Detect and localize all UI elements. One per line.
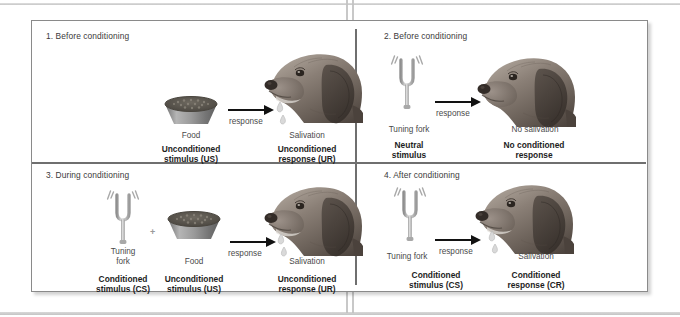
panel-4-stimulus-plain-label: Tuning fork <box>365 252 449 262</box>
plus-sign-combiner: + <box>150 227 155 237</box>
panel-1-stimulus-plain-label: Food <box>152 131 230 141</box>
response-arrow-label-1: response <box>229 117 263 126</box>
tuning-fork-icon-3 <box>106 187 140 245</box>
dog-head-illustration-2 <box>477 47 577 129</box>
figure-frame: 1. Before conditioning <box>31 20 648 292</box>
panel-1-response-bold-label-line1: Unconditioned <box>258 144 356 155</box>
response-arrow-2 <box>435 97 481 107</box>
response-arrow-label-2: response <box>436 109 470 118</box>
food-bowl-icon <box>162 95 220 125</box>
panel-2-response-bold-label-line2: response <box>479 150 589 161</box>
response-arrow-label-3: response <box>228 249 262 258</box>
panel-2-response-plain-label: No salivation <box>485 125 585 135</box>
panel-2-stimulus-plain-label: Tuning fork <box>369 125 449 135</box>
panel-4-response-bold-label-line2: response (CR) <box>487 280 585 291</box>
panel-2-heading: 2. Before conditioning <box>384 31 467 41</box>
panel-after-conditioning: 4. After conditioning <box>357 164 646 293</box>
panel-before-conditioning-fork: 2. Before conditioning <box>357 21 646 163</box>
panel-3-response-bold-label-line1: Unconditioned <box>258 274 356 285</box>
panel-3-fork-plain-label-line1: Tuning <box>87 247 159 257</box>
scan-top-edge-rule <box>0 3 680 5</box>
panel-3-food-plain-label: Food <box>156 257 232 267</box>
panel-3-response-bold-label-line2: response (UR) <box>258 284 356 295</box>
panel-2-stimulus-bold-label-line2: stimulus <box>369 150 449 161</box>
panel-1-stimulus-bold-label-line1: Unconditioned <box>142 144 240 155</box>
food-bowl-icon-3 <box>165 210 223 240</box>
panel-1-stimulus-bold-label-line2: stimulus (US) <box>142 154 240 165</box>
panel-3-response-plain-label: Salivation <box>264 257 350 267</box>
panel-during-conditioning: 3. During conditioning <box>32 164 356 293</box>
panel-2-response-bold-label-line1: No conditioned <box>479 140 589 151</box>
tuning-fork-icon-2 <box>390 52 424 110</box>
saliva-drops-1 <box>275 100 289 128</box>
panel-1-heading: 1. Before conditioning <box>46 31 129 41</box>
panel-4-stimulus-bold-label-line2: stimulus (CS) <box>387 280 485 291</box>
panel-3-fork-plain-label-line2: fork <box>87 257 159 267</box>
panel-1-response-plain-label: Salivation <box>264 131 350 141</box>
panel-4-stimulus-bold-label-line1: Conditioned <box>387 270 485 281</box>
panel-3-heading: 3. During conditioning <box>46 170 129 180</box>
panel-2-stimulus-bold-label-line1: Neutral <box>369 140 449 151</box>
tuning-fork-icon-4 <box>393 184 427 242</box>
panel-3-food-bold-label-line1: Unconditioned <box>145 274 243 285</box>
panel-3-food-bold-label-line2: stimulus (US) <box>145 284 243 295</box>
panel-4-response-plain-label: Salivation <box>493 252 579 262</box>
panel-1-response-bold-label-line2: response (UR) <box>258 154 356 165</box>
panel-4-response-bold-label-line1: Conditioned <box>487 270 585 281</box>
scan-bottom-edge-rule <box>0 312 680 315</box>
saliva-drops-3 <box>276 232 290 260</box>
panel-before-conditioning-food: 1. Before conditioning <box>32 21 356 163</box>
panel-4-heading: 4. After conditioning <box>384 170 460 180</box>
